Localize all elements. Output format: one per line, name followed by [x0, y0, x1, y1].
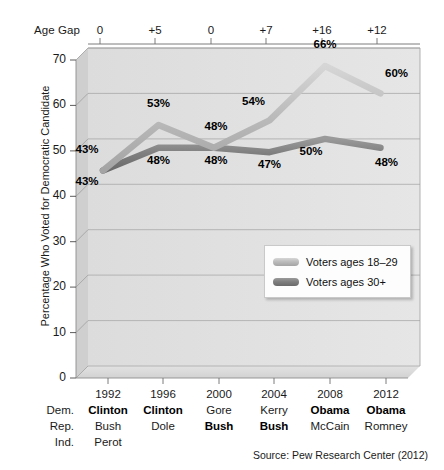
- legend-label-older: Voters ages 30+: [306, 276, 386, 288]
- table-cell-year-2008: 2008: [299, 388, 361, 400]
- data-label-older-2012: 48%: [367, 156, 407, 168]
- y-axis-title: Percentage Who Voted for Democratic Cand…: [39, 41, 51, 371]
- data-label-young-1992: 43%: [67, 143, 107, 155]
- data-label-young-2008: 66%: [305, 38, 345, 50]
- data-label-young-2012: 60%: [377, 67, 417, 79]
- data-label-young-2004: 54%: [234, 95, 274, 107]
- legend-item-older: Voters ages 30+: [273, 274, 386, 290]
- data-label-older-2004: 47%: [250, 158, 290, 170]
- y-axis-tick-20: 20: [36, 279, 66, 293]
- table-row-year: 199219962000200420082012: [0, 388, 444, 403]
- chart-legend: Voters ages 18–29 Voters ages 30+: [264, 245, 411, 298]
- table-cell-dem-2008: Obama: [299, 404, 361, 416]
- data-label-older-1996: 48%: [139, 154, 179, 166]
- table-cell-year-1996: 1996: [132, 388, 194, 400]
- y-axis-tick-30: 30: [36, 234, 66, 248]
- table-cell-year-2004: 2004: [243, 388, 305, 400]
- data-label-older-2000: 48%: [196, 154, 236, 166]
- table-cell-dem-2004: Kerry: [243, 404, 305, 416]
- table-cell-rep-2004: Bush: [243, 420, 305, 432]
- table-cell-year-2000: 2000: [188, 388, 250, 400]
- legend-swatch-older: [273, 278, 299, 286]
- source-note: Source: Pew Research Center (2012): [253, 449, 428, 461]
- data-label-young-2000: 48%: [196, 120, 236, 132]
- y-axis-tick-50: 50: [36, 143, 66, 157]
- table-row-label-ind: Ind.: [28, 436, 74, 448]
- legend-item-young: Voters ages 18–29: [273, 254, 398, 270]
- table-cell-rep-2008: McCain: [299, 420, 361, 432]
- data-label-older-1992: 43%: [67, 175, 107, 187]
- table-cell-dem-1996: Clinton: [132, 404, 194, 416]
- table-cell-rep-1992: Bush: [77, 420, 139, 432]
- y-axis-tick-0: 0: [36, 370, 66, 384]
- y-axis-tick-60: 60: [36, 97, 66, 111]
- table-row-label-dem: Dem.: [28, 404, 74, 416]
- legend-swatch-young: [273, 258, 299, 266]
- table-cell-rep-2012: Romney: [355, 420, 417, 432]
- chart-figure: Age Gap 0+50+7+16+12: [0, 0, 444, 470]
- table-cell-year-2012: 2012: [355, 388, 417, 400]
- table-row-rep: Rep.BushDoleBushBushMcCainRomney: [0, 420, 444, 435]
- data-label-older-2008: 50%: [291, 145, 331, 157]
- table-cell-dem-2000: Gore: [188, 404, 250, 416]
- table-cell-dem-2012: Obama: [355, 404, 417, 416]
- table-cell-rep-1996: Dole: [132, 420, 194, 432]
- table-row-label-rep: Rep.: [28, 420, 74, 432]
- y-axis-tick-70: 70: [36, 52, 66, 66]
- table-row-dem: Dem.ClintonClintonGoreKerryObamaObama: [0, 404, 444, 419]
- y-axis-tick-40: 40: [36, 188, 66, 202]
- legend-label-young: Voters ages 18–29: [306, 256, 398, 268]
- table-cell-year-1992: 1992: [77, 388, 139, 400]
- table-cell-ind-1992: Perot: [77, 436, 139, 448]
- table-cell-dem-1992: Clinton: [77, 404, 139, 416]
- table-cell-rep-2000: Bush: [188, 420, 250, 432]
- data-label-young-1996: 53%: [139, 97, 179, 109]
- y-axis-tick-10: 10: [36, 325, 66, 339]
